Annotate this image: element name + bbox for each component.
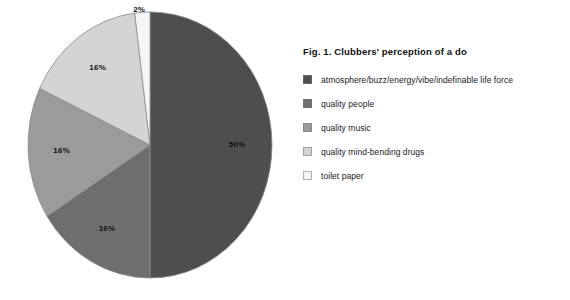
legend-color-swatch bbox=[303, 99, 312, 108]
pie-slice-value-label: 16% bbox=[99, 225, 116, 233]
pie-chart-area: 50%16%16%16%2% bbox=[26, 10, 274, 280]
pie-slice-value-label: 16% bbox=[89, 64, 106, 72]
legend-item[interactable]: quality music bbox=[303, 122, 565, 133]
legend-color-swatch bbox=[303, 171, 312, 180]
pie-slice[interactable] bbox=[150, 12, 272, 278]
legend-item[interactable]: toilet paper bbox=[303, 170, 565, 181]
pie-chart-figure: 50%16%16%16%2% Fig. 1. Clubbers' percept… bbox=[0, 0, 570, 300]
legend-item[interactable]: atmosphere/buzz/energy/vibe/indefinable … bbox=[303, 74, 565, 85]
chart-title: Fig. 1. Clubbers' perception of a do bbox=[303, 46, 565, 57]
pie-slice-value-label: 2% bbox=[133, 6, 145, 14]
legend-item-label: quality music bbox=[321, 124, 371, 133]
legend-color-swatch bbox=[303, 123, 312, 132]
legend-item-label: atmosphere/buzz/energy/vibe/indefinable … bbox=[321, 76, 513, 85]
legend-item-label: toilet paper bbox=[321, 172, 364, 181]
legend-color-swatch bbox=[303, 75, 312, 84]
legend-item[interactable]: quality mind-bending drugs bbox=[303, 146, 565, 157]
pie-slice-value-label: 50% bbox=[229, 141, 246, 149]
legend-list: atmosphere/buzz/energy/vibe/indefinable … bbox=[303, 74, 565, 181]
legend-item-label: quality mind-bending drugs bbox=[321, 148, 424, 157]
legend-block: Fig. 1. Clubbers' perception of a do atm… bbox=[303, 46, 565, 181]
legend-item[interactable]: quality people bbox=[303, 98, 565, 109]
pie-slice-value-label: 16% bbox=[53, 147, 70, 155]
legend-item-label: quality people bbox=[321, 100, 374, 109]
legend-color-swatch bbox=[303, 147, 312, 156]
